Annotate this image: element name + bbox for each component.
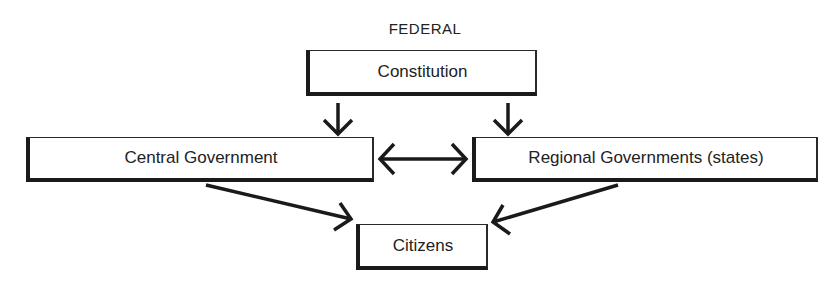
arrow-constitution-to-central-icon bbox=[324, 103, 352, 134]
arrow-regional-to-citizens-icon bbox=[493, 185, 618, 234]
arrow-central-to-citizens-icon bbox=[206, 185, 351, 230]
arrow-central-regional-bidirectional-icon bbox=[380, 144, 466, 174]
arrows-layer bbox=[0, 0, 830, 295]
federal-diagram: FEDERAL Constitution Central Government … bbox=[0, 0, 830, 295]
arrow-constitution-to-regional-icon bbox=[494, 103, 522, 134]
